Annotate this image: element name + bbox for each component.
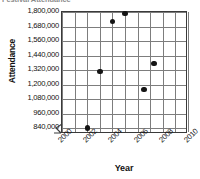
x-tick-label: 2002	[81, 127, 99, 145]
x-axis-tick-labels: 200020022004200620082010	[0, 0, 200, 179]
x-tick-label: 2004	[106, 127, 124, 145]
x-tick-label: 2008	[157, 127, 175, 145]
x-tick-label: 2010	[182, 127, 200, 145]
axis-break-icon	[53, 120, 67, 136]
x-tick-label: 2006	[132, 127, 150, 145]
chart-figure: Festival Attendance Attendance Year 840,…	[0, 0, 200, 179]
